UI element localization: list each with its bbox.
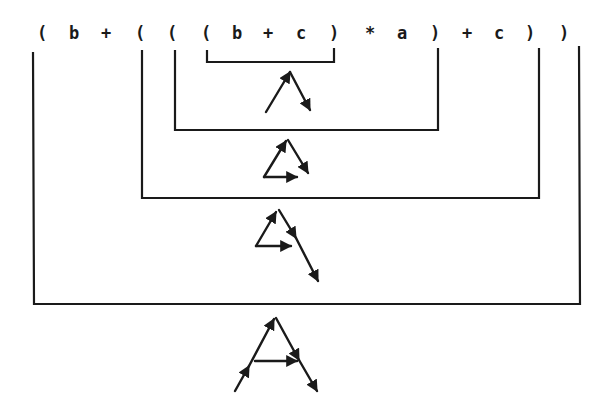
bracket-level-2	[142, 48, 539, 198]
expression-tree-diagram: (b+(((b+c)*a)+c))	[0, 0, 596, 417]
bracket-level-1	[33, 46, 580, 304]
diagram-canvas	[0, 0, 596, 417]
tree-level-2	[256, 210, 318, 281]
tree-level-1	[235, 318, 317, 391]
tree-level-3	[264, 140, 308, 177]
bracket-level-4	[207, 48, 334, 62]
bracket-level-3	[175, 48, 438, 130]
tree-level-4	[266, 72, 310, 112]
